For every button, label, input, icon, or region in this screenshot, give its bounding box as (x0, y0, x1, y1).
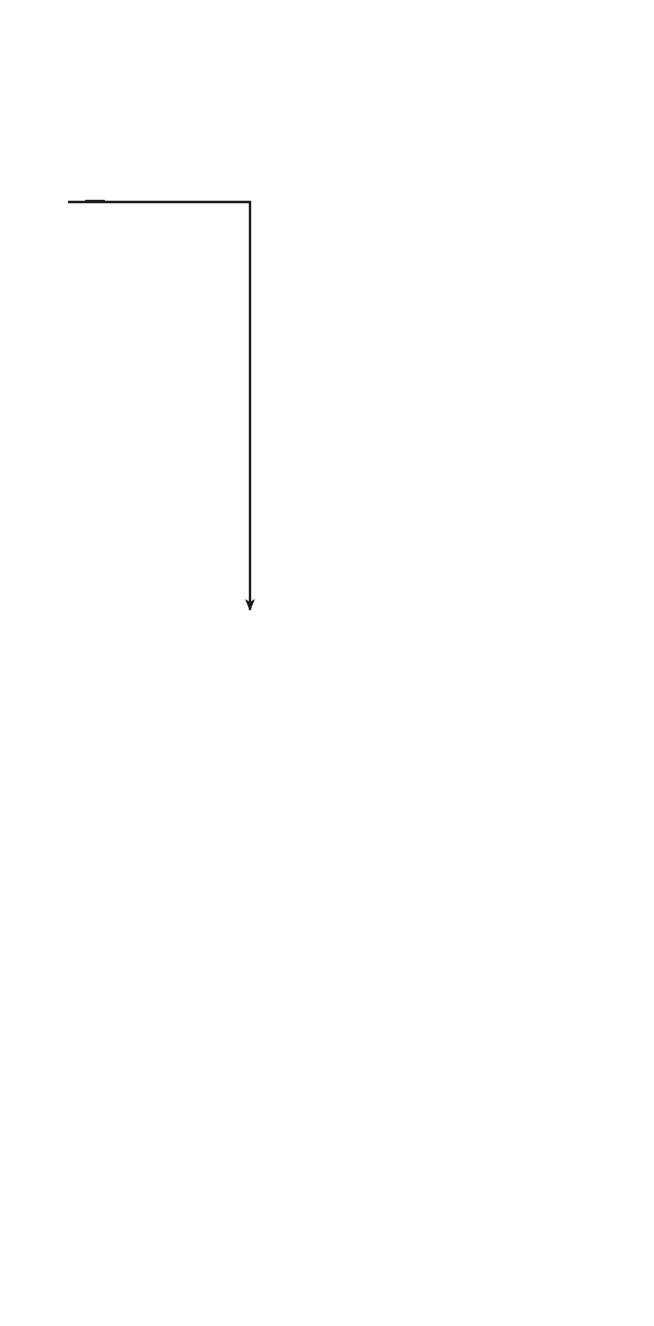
flow-diagram (0, 0, 654, 1326)
diagram-arrows (0, 0, 654, 1326)
